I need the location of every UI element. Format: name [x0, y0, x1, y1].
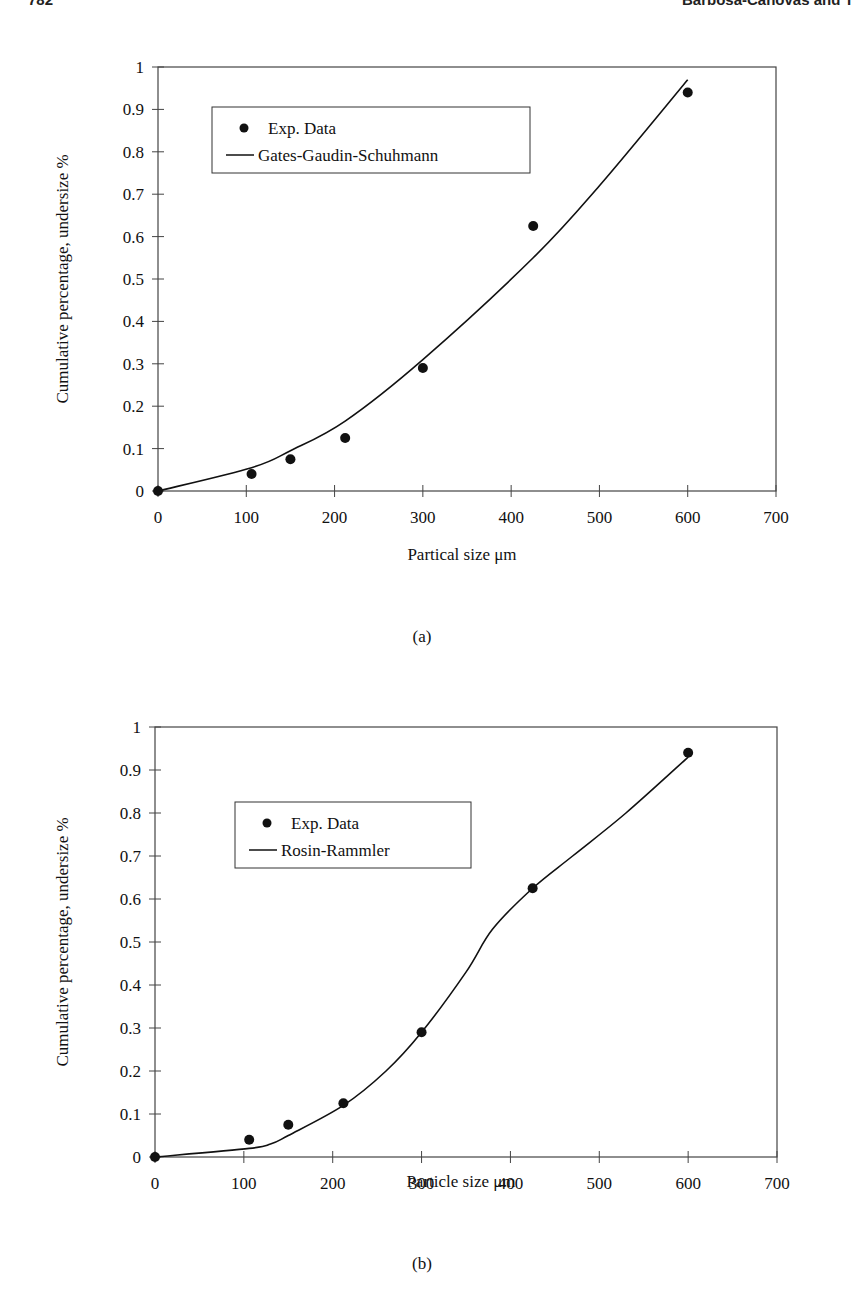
y-tick-label: 0.7 [120, 847, 142, 866]
figure-caption-b: (b) [0, 1254, 844, 1274]
data-point [247, 469, 257, 479]
y-tick-label: 0.8 [123, 143, 144, 162]
x-tick-label: 200 [320, 1174, 346, 1193]
y-tick-label: 0.6 [120, 890, 141, 909]
y-tick-label: 0.2 [120, 1062, 141, 1081]
x-tick-label: 300 [410, 508, 436, 527]
x-axis-label: Partical size μm [407, 545, 516, 564]
y-tick-label: 1 [133, 718, 142, 737]
y-tick-label: 0.6 [123, 228, 144, 247]
y-axis-label: Cumulative percentage, undersize % [53, 154, 72, 403]
legend-marker-label: Exp. Data [268, 119, 336, 138]
figure-caption-a: (a) [0, 627, 844, 647]
data-point [683, 748, 693, 758]
legend-marker-icon [263, 819, 272, 828]
legend: Exp. Data Gates-Gaudin-Schuhmann [212, 107, 530, 173]
chart-b: 00.10.20.30.40.50.60.70.80.91 0100200300… [0, 660, 844, 1220]
legend-line-label: Rosin-Rammler [281, 841, 390, 860]
y-tick-label: 0 [136, 482, 145, 501]
y-tick-label: 0.5 [123, 270, 144, 289]
y-tick-label: 0.3 [120, 1019, 141, 1038]
x-tick-label: 400 [498, 508, 524, 527]
data-point [153, 486, 163, 496]
y-tick-label: 0 [133, 1148, 142, 1167]
y-tick-label: 0.1 [123, 440, 144, 459]
data-point [283, 1120, 293, 1130]
y-tick-label: 0.4 [120, 976, 142, 995]
x-tick-label: 100 [234, 508, 260, 527]
x-tick-label: 200 [322, 508, 348, 527]
x-tick-label: 600 [675, 508, 701, 527]
data-point [244, 1135, 254, 1145]
x-tick-label: 700 [764, 1174, 790, 1193]
y-tick-label: 1 [136, 58, 145, 77]
y-tick-label: 0.3 [123, 355, 144, 374]
y-tick-label: 0.1 [120, 1105, 141, 1124]
x-tick-label: 700 [763, 508, 789, 527]
y-tick-label: 0.8 [120, 804, 141, 823]
y-tick-label: 0.2 [123, 397, 144, 416]
y-tick-label: 0.5 [120, 933, 141, 952]
x-tick-label: 100 [231, 1174, 257, 1193]
data-point [528, 221, 538, 231]
x-tick-label: 500 [587, 1174, 613, 1193]
x-tick-label: 0 [151, 1174, 160, 1193]
legend-marker-label: Exp. Data [291, 814, 359, 833]
data-point [417, 1027, 427, 1037]
data-point [528, 883, 538, 893]
data-point [285, 454, 295, 464]
plot-frame [155, 727, 777, 1157]
data-point [418, 363, 428, 373]
chart-a: 00.10.20.30.40.50.60.70.80.91 0100200300… [0, 0, 844, 600]
data-point [340, 433, 350, 443]
y-tick-label: 0.4 [123, 312, 145, 331]
x-tick-label: 0 [154, 508, 163, 527]
data-point [338, 1098, 348, 1108]
y-tick-label: 0.7 [123, 185, 145, 204]
plot-area [155, 727, 777, 1157]
data-point [150, 1152, 160, 1162]
y-tick-label: 0.9 [120, 761, 141, 780]
legend-marker-icon [240, 124, 249, 133]
data-point [683, 87, 693, 97]
x-tick-label: 600 [675, 1174, 701, 1193]
y-tick-label: 0.9 [123, 100, 144, 119]
legend-line-label: Gates-Gaudin-Schuhmann [258, 146, 439, 165]
y-axis-label: Cumulative percentage, undersize % [53, 817, 72, 1066]
x-tick-label: 500 [587, 508, 613, 527]
legend: Exp. Data Rosin-Rammler [235, 802, 471, 868]
x-axis-label: Particle size μm [406, 1172, 515, 1191]
